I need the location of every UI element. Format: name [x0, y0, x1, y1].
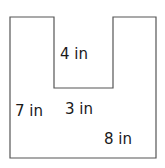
u-shape-diagram: 4 in 7 in 3 in 8 in: [0, 0, 165, 168]
label-left-side: 7 in: [15, 102, 43, 120]
label-bottom: 8 in: [104, 130, 132, 148]
u-shape-outline: [10, 17, 156, 158]
label-notch-bottom: 3 in: [65, 100, 93, 118]
label-top-notch: 4 in: [60, 45, 88, 63]
